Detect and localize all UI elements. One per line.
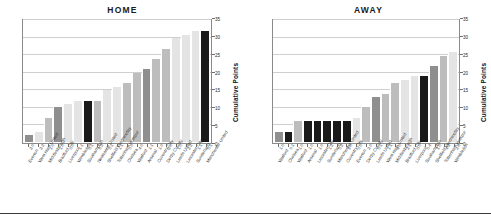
bar: [332, 121, 342, 142]
footer-divider: [0, 213, 491, 214]
gridline: [23, 19, 211, 20]
bar: [410, 76, 420, 142]
bar: [303, 121, 313, 142]
y-tick-label: 20: [215, 70, 220, 75]
plot-area-home: [22, 19, 212, 144]
x-axis-labels-home: 2-0Everton2-2West Ham United1-0Middlesbr…: [23, 145, 211, 207]
chart-panel-home: HOME 05101520253035 Cumulative Points 2-…: [0, 0, 245, 205]
bar: [171, 38, 181, 142]
plot-area-away: [272, 19, 460, 144]
y-tick-label: 15: [215, 88, 220, 93]
bar: [93, 101, 103, 142]
bar: [200, 31, 210, 142]
chart-title-home: HOME: [0, 5, 245, 15]
bar: [293, 121, 303, 142]
bar: [151, 59, 161, 142]
chart-title-away: AWAY: [246, 5, 491, 15]
y-tick-label: 15: [463, 88, 468, 93]
x-axis-labels-away: 1-0Watford0-1Chelsea1-0Watford1-0Arsenal…: [273, 145, 459, 207]
bar: [83, 101, 93, 142]
y-tick-label: 35: [215, 17, 220, 22]
bar: [313, 121, 323, 142]
bar-series-home: [24, 21, 210, 142]
bar-series-away: [274, 21, 458, 142]
y-tick-label: 30: [215, 34, 220, 39]
bar: [390, 83, 400, 142]
y-tick-label: 35: [463, 17, 468, 22]
bar: [274, 132, 284, 142]
bar: [439, 56, 449, 142]
bar: [429, 66, 439, 142]
y-tick-label: 5: [463, 124, 466, 129]
y-tick-label: 25: [215, 52, 220, 57]
y-tick-label: 10: [215, 106, 220, 111]
bar: [63, 104, 73, 142]
y-tick-label: 10: [463, 106, 468, 111]
bar: [34, 132, 44, 142]
bar: [102, 90, 112, 142]
bar: [24, 135, 34, 142]
dual-bar-chart-figure: HOME 05101520253035 Cumulative Points 2-…: [0, 0, 491, 216]
chart-panel-away: AWAY 05101520253035 Cumulative Points 1-…: [246, 0, 491, 205]
y-axis-title-away: Cumulative Points: [480, 63, 487, 122]
y-tick-label: 25: [463, 52, 468, 57]
bar: [284, 132, 294, 142]
bar: [161, 49, 171, 142]
y-tick-label: 5: [215, 124, 218, 129]
gridline: [273, 19, 459, 20]
bar: [181, 35, 191, 142]
y-axis-title-home: Cumulative Points: [232, 63, 239, 122]
bar: [191, 31, 201, 142]
bar: [361, 107, 371, 142]
bar: [142, 69, 152, 142]
y-tick-label: 20: [463, 70, 468, 75]
bar: [381, 94, 391, 142]
bar: [419, 76, 429, 142]
y-tick-label: 30: [463, 34, 468, 39]
bar: [73, 101, 83, 142]
bar: [371, 97, 381, 142]
